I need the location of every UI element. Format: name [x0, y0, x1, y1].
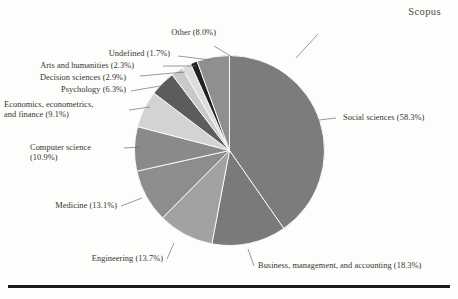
slice-label-other: Other (8.0%)	[130, 28, 216, 38]
slice-label-psychology: Psychology (6.3%)	[41, 85, 126, 95]
slice-label-business: Business, management, and accounting (18…	[258, 261, 421, 271]
bottom-rule	[8, 285, 450, 288]
slice-label-computer-science-line2: (10.9%)	[30, 153, 122, 163]
slice-label-social-sciences: Social sciences (58.3%)	[343, 113, 424, 123]
slice-label-economics: Economics, econometrics, and finance (9.…	[4, 100, 126, 120]
pie-chart-figure: Scopus Social sciences (58.3%) Business,…	[0, 0, 458, 299]
slice-label-engineering: Engineering (13.7%)	[61, 254, 163, 264]
slice-label-decision-sciences: Decision sciences (2.9%)	[14, 73, 126, 83]
slice-label-computer-science: Computer science (10.9%)	[30, 143, 122, 163]
slice-label-medicine: Medicine (13.1%)	[37, 201, 117, 211]
pie-slices-group	[134, 56, 324, 246]
slice-label-arts-and-humanities: Arts and humanities (2.3%)	[12, 61, 134, 71]
slice-label-undefined: Undefined (1.7%)	[84, 49, 170, 59]
slice-label-economics-line2: and finance (9.1%)	[4, 110, 126, 120]
slice-label-economics-line1: Economics, econometrics,	[4, 100, 126, 110]
slice-label-computer-science-line1: Computer science	[30, 143, 122, 153]
